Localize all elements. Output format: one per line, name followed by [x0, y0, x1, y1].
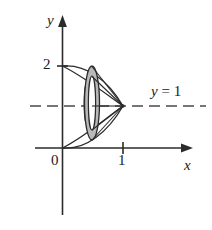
axis-of-revolution-label-value: 1 — [174, 83, 182, 99]
axis-of-revolution-label-variable: y — [151, 83, 158, 99]
figure-canvas — [0, 0, 212, 230]
y-axis-arrow-icon — [58, 15, 67, 27]
convergence-point — [121, 104, 124, 107]
y-axis-label: y — [47, 12, 54, 29]
x-tick-label-1: 1 — [118, 152, 126, 169]
solid-of-revolution-figure: y x 2 0 1 y = 1 — [0, 0, 212, 230]
x-tick-label-0: 0 — [51, 152, 59, 169]
washer-inner-ellipse — [88, 76, 95, 130]
y-tick-label-2: 2 — [43, 56, 51, 73]
axes-group — [35, 15, 193, 215]
x-axis-label: x — [184, 157, 191, 174]
axis-of-revolution-label-operator: = — [158, 83, 174, 99]
axis-of-revolution-label: y = 1 — [151, 83, 181, 100]
x-axis-arrow-icon — [181, 144, 193, 153]
representative-washer-group — [84, 66, 99, 140]
